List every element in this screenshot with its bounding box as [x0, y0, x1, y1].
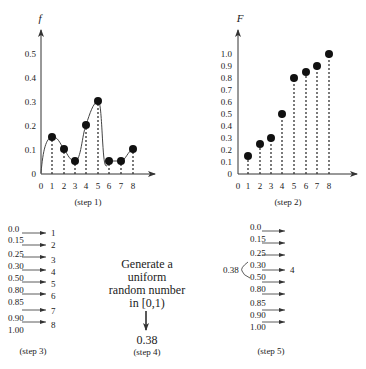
x-tick: 5: [292, 181, 297, 191]
x-tick-labels: 0 1 2 3 4 5 6 7 8: [236, 181, 332, 191]
y-tick: 0.1: [221, 157, 232, 167]
bound-label: 0.50: [8, 273, 24, 283]
step4-caption: (step 4): [133, 347, 160, 357]
y-tick: 0.6: [221, 97, 233, 107]
x-tick: 3: [269, 181, 274, 191]
data-points: [244, 50, 333, 160]
bound-label: 0.90: [250, 310, 266, 320]
instruction-line: in [0,1): [129, 296, 164, 310]
index-label: 3: [51, 255, 56, 265]
bound-labels: 0.0 0.15 0.25 0.30 0.50 0.80 0.85 0.90 1…: [250, 222, 266, 332]
y-tick: 0.5: [25, 49, 37, 59]
sample-value: 0.38: [223, 265, 239, 275]
bound-label: 0.80: [250, 284, 266, 294]
bracket-icon: [242, 262, 250, 278]
x-tick: 1: [50, 181, 55, 191]
x-tick: 2: [258, 181, 263, 191]
x-tick: 8: [131, 181, 136, 191]
index-label: 5: [51, 279, 56, 289]
arrows: [22, 233, 46, 322]
stems: [248, 54, 329, 174]
y-tick: 0.4: [25, 73, 37, 83]
bound-label: 0.85: [250, 298, 266, 308]
data-point: [313, 62, 321, 70]
y-axis-label: f: [38, 12, 43, 24]
y-tick: 0.5: [221, 109, 233, 119]
x-tick: 5: [96, 181, 101, 191]
x-tick-labels: 0 1 2 3 4 5 6 7 8: [39, 181, 136, 191]
bound-label: 0.80: [8, 285, 24, 295]
data-point: [278, 110, 286, 118]
bound-label: 0.25: [8, 249, 24, 259]
diagram-canvas: f 0 0.1 0.2 0.3 0.4 0.5 0 1 2 3 4 5 6 7 …: [0, 0, 366, 369]
bound-label: 1.00: [250, 322, 266, 332]
step4-random: Generate a uniform random number in [0,1…: [109, 257, 185, 357]
bound-label: 0.30: [8, 261, 24, 271]
data-point: [60, 145, 68, 153]
x-tick: 4: [84, 181, 89, 191]
x-tick: 0: [236, 181, 241, 191]
instruction-line: Generate a: [121, 257, 173, 271]
x-tick: 8: [327, 181, 332, 191]
y-tick: 0.7: [221, 85, 233, 95]
x-tick: 6: [107, 181, 112, 191]
y-tick: 0.8: [221, 73, 233, 83]
data-point: [48, 133, 56, 141]
index-label: 7: [51, 306, 56, 316]
bound-labels: 0.0 0.15 0.25 0.30 0.50 0.80 0.85 0.90 1…: [8, 224, 24, 335]
instruction-text: Generate a uniform random number in [0,1…: [109, 257, 185, 310]
instruction-line: random number: [109, 283, 185, 297]
x-tick: 6: [304, 181, 309, 191]
step5-lookup: 0.0 0.15 0.25 0.30 0.50 0.80 0.85 0.90 1…: [223, 222, 295, 356]
y-tick: 0.2: [221, 145, 232, 155]
bound-label: 0.0: [8, 224, 20, 234]
data-point: [129, 145, 137, 153]
y-tick: 0.9: [221, 61, 233, 71]
x-tick: 7: [315, 181, 320, 191]
index-label: 8: [51, 320, 56, 330]
step5-caption: (step 5): [257, 346, 284, 356]
index-label: 6: [51, 291, 56, 301]
x-tick: 3: [73, 181, 78, 191]
x-tick: 7: [119, 181, 124, 191]
x-tick: 1: [246, 181, 251, 191]
bound-label: 0.15: [8, 235, 24, 245]
data-point: [244, 152, 252, 160]
index-labels: 1 2 3 4 5 6 7 8: [51, 228, 56, 330]
step1-caption: (step 1): [74, 197, 101, 207]
bound-label: 0.25: [250, 248, 266, 258]
data-point: [267, 134, 275, 142]
y-axis-label: F: [236, 12, 244, 24]
index-label: 1: [51, 228, 56, 238]
data-point: [105, 157, 113, 165]
y-tick: 1.0: [221, 49, 233, 59]
data-point: [94, 97, 102, 105]
y-tick-labels: 0 0.1 0.2 0.3 0.4 0.5: [25, 49, 37, 179]
selected-index: 4: [290, 265, 295, 275]
data-point: [82, 121, 90, 129]
step3-caption: (step 3): [19, 346, 46, 356]
y-tick: 0.3: [25, 97, 37, 107]
bound-label: 0.50: [250, 272, 266, 282]
bound-label: 0.15: [250, 234, 266, 244]
x-tick: 2: [62, 181, 67, 191]
instruction-line: uniform: [128, 270, 167, 284]
y-tick: 0: [32, 169, 37, 179]
index-label: 2: [51, 240, 56, 250]
random-result: 0.38: [137, 333, 158, 347]
y-tick: 0: [228, 169, 233, 179]
data-point: [290, 74, 298, 82]
data-point: [117, 157, 125, 165]
y-tick: 0.2: [25, 121, 36, 131]
x-tick: 4: [280, 181, 285, 191]
index-label: 4: [51, 267, 56, 277]
data-point: [71, 157, 79, 165]
data-point: [256, 140, 264, 148]
bound-label: 0.30: [250, 260, 266, 270]
y-tick: 0.1: [25, 145, 36, 155]
bound-label: 1.00: [8, 325, 24, 335]
x-tick: 0: [39, 181, 44, 191]
step3-intervals: 0.0 0.15 0.25 0.30 0.50 0.80 0.85 0.90 1…: [8, 224, 56, 356]
data-point: [302, 68, 310, 76]
y-tick: 0.3: [221, 133, 233, 143]
